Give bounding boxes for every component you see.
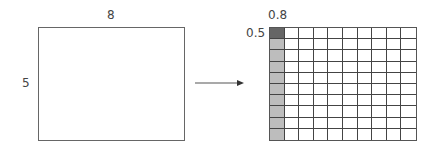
grid-cell <box>270 129 285 140</box>
grid-cell <box>328 106 343 117</box>
grid-cell <box>372 129 387 140</box>
grid-cell <box>328 50 343 61</box>
subdivided-grid <box>269 27 417 141</box>
grid-cell <box>358 129 373 140</box>
grid-cell <box>387 39 402 50</box>
grid-cell <box>372 28 387 39</box>
grid-cell <box>358 39 373 50</box>
grid-cell <box>314 106 329 117</box>
grid-cell <box>285 50 300 61</box>
grid-cell <box>401 28 416 39</box>
grid-cell <box>401 50 416 61</box>
grid-cell <box>270 28 285 39</box>
grid-cell <box>314 118 329 129</box>
grid-cell <box>401 62 416 73</box>
grid-cell <box>343 95 358 106</box>
grid-cell <box>401 84 416 95</box>
grid-cell <box>299 95 314 106</box>
grid-cell <box>299 106 314 117</box>
grid-cell <box>372 50 387 61</box>
grid-cell <box>270 39 285 50</box>
grid-cell <box>387 118 402 129</box>
grid-cell <box>314 73 329 84</box>
grid-cell <box>401 118 416 129</box>
grid-cell <box>328 84 343 95</box>
width-label: 8 <box>107 8 115 22</box>
grid-cell <box>358 84 373 95</box>
grid-cell <box>270 73 285 84</box>
grid-cell <box>358 95 373 106</box>
grid-cell <box>285 95 300 106</box>
grid-cell <box>299 129 314 140</box>
grid-cell <box>358 50 373 61</box>
grid-cell <box>270 106 285 117</box>
grid-cell <box>328 62 343 73</box>
grid-cell <box>299 84 314 95</box>
grid-cell <box>299 62 314 73</box>
grid-cell <box>372 95 387 106</box>
grid-cell <box>299 73 314 84</box>
grid-cell <box>314 129 329 140</box>
grid-cell <box>285 129 300 140</box>
grid-cell <box>328 39 343 50</box>
grid-cell <box>358 62 373 73</box>
grid-cell <box>401 39 416 50</box>
grid-cell <box>343 62 358 73</box>
grid-cell <box>343 50 358 61</box>
grid-cell <box>372 84 387 95</box>
grid-cell <box>358 118 373 129</box>
grid-cell <box>270 50 285 61</box>
grid-cell <box>343 28 358 39</box>
grid-cell <box>358 28 373 39</box>
grid-cell <box>372 39 387 50</box>
grid-cell <box>387 62 402 73</box>
grid-cell <box>387 50 402 61</box>
grid-cell <box>343 106 358 117</box>
cell-width-label: 0.8 <box>268 8 287 22</box>
grid-cell <box>270 62 285 73</box>
height-label: 5 <box>22 76 30 90</box>
grid-cell <box>328 118 343 129</box>
grid-cell <box>299 50 314 61</box>
grid-cell <box>314 39 329 50</box>
grid-cell <box>285 84 300 95</box>
grid-cell <box>328 28 343 39</box>
grid-cell <box>285 62 300 73</box>
grid-cell <box>401 129 416 140</box>
grid-cell <box>387 129 402 140</box>
grid-cell <box>343 129 358 140</box>
cell-height-label: 0.5 <box>246 26 265 40</box>
grid-cell <box>387 28 402 39</box>
grid-cell <box>372 118 387 129</box>
grid-cell <box>328 73 343 84</box>
grid-cell <box>387 95 402 106</box>
grid-cell <box>314 62 329 73</box>
grid-cell <box>401 73 416 84</box>
grid-cell <box>314 95 329 106</box>
arrow-right-icon <box>193 78 247 88</box>
grid-cell <box>299 28 314 39</box>
grid-cell <box>328 129 343 140</box>
grid-cell <box>343 118 358 129</box>
grid-cell <box>328 95 343 106</box>
grid-cell <box>387 106 402 117</box>
grid-cell <box>285 106 300 117</box>
grid-cell <box>343 39 358 50</box>
grid-cell <box>343 73 358 84</box>
grid-cell <box>358 73 373 84</box>
grid-cell <box>372 106 387 117</box>
grid-cell <box>372 62 387 73</box>
grid-cell <box>314 28 329 39</box>
grid-cell <box>299 118 314 129</box>
grid-cell <box>299 39 314 50</box>
grid-cell <box>270 118 285 129</box>
grid-cell <box>343 84 358 95</box>
grid-cell <box>270 95 285 106</box>
grid-cell <box>372 73 387 84</box>
grid-cell <box>358 106 373 117</box>
grid-cell <box>401 95 416 106</box>
large-rectangle <box>38 27 185 141</box>
grid-cell <box>314 84 329 95</box>
grid-cell <box>285 28 300 39</box>
grid-cell <box>285 118 300 129</box>
